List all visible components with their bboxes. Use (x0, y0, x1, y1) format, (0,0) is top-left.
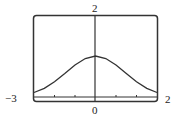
plot-area (0, 0, 173, 124)
